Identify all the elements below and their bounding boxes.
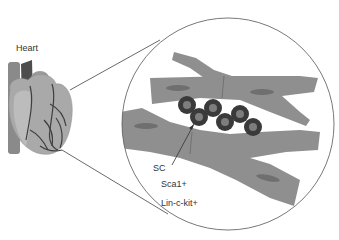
nucleus	[134, 123, 158, 129]
heart-label: Heart	[16, 43, 38, 53]
zoom-connector-top	[70, 40, 160, 90]
nucleus	[250, 89, 274, 95]
magnified-tissue	[120, 52, 320, 206]
sc-label: SC	[153, 163, 166, 173]
heart-illustration	[8, 60, 72, 154]
nucleus	[166, 85, 190, 91]
zoom-connector-bottom	[62, 150, 168, 214]
lin-ckit-label: Lin-c-kit+	[161, 198, 198, 208]
sca1-label: Sca1+	[161, 179, 187, 189]
